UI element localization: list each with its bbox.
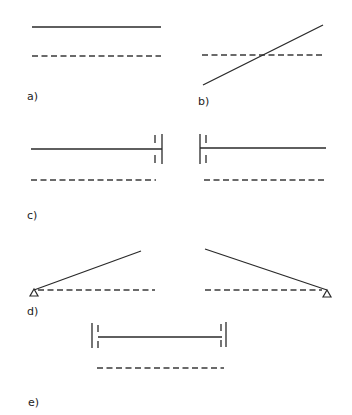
panel-a — [32, 27, 161, 56]
panel-e-left-wall-icon — [92, 323, 98, 348]
panel-d — [30, 249, 331, 297]
panel-e-right-wall-icon — [221, 322, 226, 347]
diagram-canvas — [0, 0, 352, 415]
panel-d-label: d) — [27, 306, 38, 317]
panel-c-label: c) — [27, 210, 37, 221]
panel-c — [31, 134, 326, 180]
panel-c-right-wall-icon — [200, 134, 206, 164]
panel-a-label: a) — [27, 91, 38, 102]
panel-d-right-inclined-line — [205, 249, 327, 290]
panel-b — [202, 25, 324, 85]
panel-e-label: e) — [28, 397, 39, 408]
panel-b-label: b) — [198, 96, 209, 107]
panel-d-left-pin-support-icon — [30, 289, 38, 296]
panel-d-right-pin-support-icon — [323, 290, 331, 297]
panel-d-left-inclined-line — [34, 251, 141, 290]
panel-e — [92, 322, 226, 368]
